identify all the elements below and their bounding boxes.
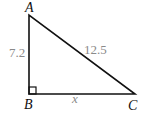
right-angle-marker [29,87,36,94]
vertex-label-c: C [128,98,138,113]
vertex-label-b: B [24,97,33,112]
side-label-ab: 7.2 [9,45,25,60]
side-label-bc: x [71,91,78,106]
triangle-diagram: A B C 7.2 12.5 x [0,0,147,113]
triangle-abc [29,15,135,94]
vertex-label-a: A [24,0,34,15]
side-label-ac: 12.5 [84,42,107,57]
